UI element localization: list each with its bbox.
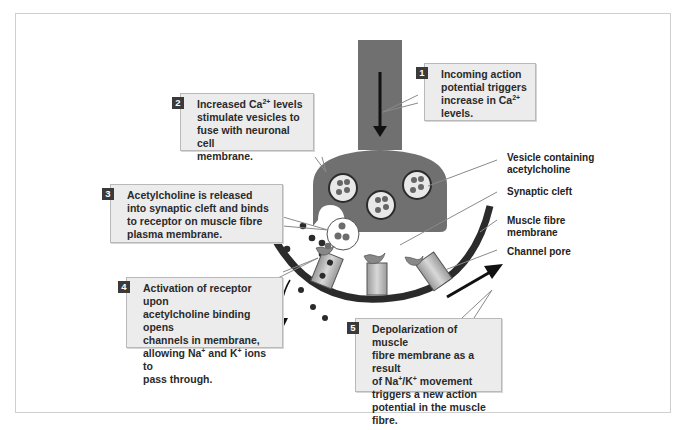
callout-text-1: Incoming action potential triggers incre… [441,68,529,120]
receptor-channel-closed [364,253,387,295]
label-channel-pore: Channel pore [507,246,571,258]
callout-text-4: Activation of receptor upon acetylcholin… [143,282,276,386]
callout-text-5: Depolarization of muscle fibre membrane … [372,323,495,427]
callout-text-3: Acetylcholine is released into synaptic … [127,189,276,241]
step-badge-1: 1 [416,67,428,79]
vesicle-right [403,171,431,199]
vesicle-left [329,174,357,202]
label-muscle-membrane: Muscle fibre membrane [507,215,565,239]
callout-step-2: 2 Increased Ca2+ levels stimulate vesicl… [180,93,314,151]
callout-text-2: Increased Ca2+ levels stimulate vesicles… [197,98,307,163]
callout-step-5: 5 Depolarization of muscle fibre membran… [355,318,502,392]
step-badge-5: 5 [347,322,359,334]
receptor-channel-right [416,252,452,291]
ion-flow-arrow [282,280,290,322]
synapse-diagram [0,0,689,430]
step-badge-4: 4 [118,281,130,293]
step-badge-2: 2 [172,97,184,109]
step-badge-3: 3 [102,188,114,200]
label-vesicle: Vesicle containing acetylcholine [507,152,594,176]
callout-step-4: 4 Activation of receptor upon acetylchol… [126,277,283,348]
callout-step-3: 3 Acetylcholine is released into synapti… [110,184,283,243]
label-synaptic-cleft: Synaptic cleft [507,186,572,198]
vesicle-center [367,191,395,219]
callout-step-1: 1 Incoming action potential triggers inc… [424,63,536,121]
